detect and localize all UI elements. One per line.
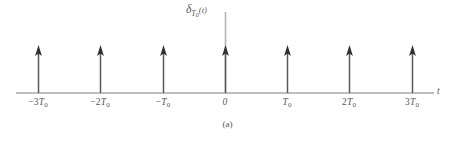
tick-sub-neg2T0: 0: [106, 101, 110, 109]
tick-sub-neg3T0: 0: [44, 101, 48, 109]
tick-label-neg1T0: −T0: [156, 97, 170, 107]
tick-sym-neg2T0: T: [101, 97, 106, 107]
tick-sym-zero: 0: [223, 97, 228, 107]
impulse-arrow-pos2T0: [346, 45, 353, 93]
tick-sub-pos2T0: 0: [353, 101, 357, 109]
tick-sym-neg3T0: T: [39, 97, 44, 107]
tick-label-pos1T0: T0: [283, 97, 292, 107]
tick-label-pos2T0: 2T0: [342, 97, 356, 107]
impulse-arrow-neg2T0: [97, 45, 104, 93]
tick-label-neg2T0: −2T0: [90, 97, 109, 107]
impulse-arrow-neg1T0: [160, 45, 167, 93]
impulse-arrow-pos3T0: [409, 45, 416, 93]
tick-coef-neg3T0: −3: [28, 97, 38, 107]
argument-t: (t): [199, 5, 207, 15]
tick-sub-pos3T0: 0: [416, 101, 420, 109]
impulse-arrow-neg3T0: [35, 45, 42, 93]
tick-label-pos3T0: 3T0: [405, 97, 419, 107]
signal-label: δT0(t): [186, 3, 207, 15]
tick-sub-pos1T0: 0: [288, 101, 292, 109]
x-axis-label: t: [437, 86, 440, 96]
impulse-train-figure: δT0(t) −3T0 −2T0 −T0 0 T0 2T0 3T0 t (a): [0, 0, 455, 141]
tick-sym-pos1T0: T: [283, 97, 288, 107]
tick-label-neg3T0: −3T0: [28, 97, 47, 107]
tick-label-zero: 0: [223, 97, 228, 107]
figure-caption: (a): [0, 119, 455, 129]
impulse-arrow-zero: [222, 45, 229, 93]
tick-sub-neg1T0: 0: [167, 101, 171, 109]
impulse-arrow-pos1T0: [284, 45, 291, 93]
tick-coef-neg2T0: −2: [90, 97, 100, 107]
